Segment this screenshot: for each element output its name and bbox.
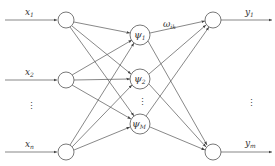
input-node-1 <box>58 12 74 28</box>
input-layer <box>58 12 74 160</box>
output-node-1 <box>205 12 221 28</box>
input-label-2: x2 <box>25 67 34 78</box>
hidden-ellipsis: ⋮ <box>138 97 147 107</box>
hidden-layer: ψ1 ψ2 ψM ⋮ <box>130 25 150 134</box>
hidden-output-edges <box>146 21 209 150</box>
output-label-1: y1 <box>244 7 254 18</box>
input-hidden-edges <box>70 22 134 150</box>
neural-network-diagram: ψ1 ψ2 ψM ⋮ x1 x2 ⋮ xn ωik y1 ⋮ ym <box>0 0 275 166</box>
input-node-2 <box>58 72 74 88</box>
output-ellipsis: ⋮ <box>247 98 256 108</box>
input-node-n <box>58 144 74 160</box>
output-layer <box>205 12 221 160</box>
weight-label: ωik <box>163 19 176 30</box>
input-arrows <box>5 20 57 152</box>
output-node-m <box>205 144 221 160</box>
input-ellipsis: ⋮ <box>27 101 36 111</box>
output-label-m: ym <box>244 138 256 149</box>
input-label-n: xn <box>25 139 34 150</box>
output-arrows <box>221 20 272 152</box>
input-label-1: x1 <box>25 7 34 18</box>
